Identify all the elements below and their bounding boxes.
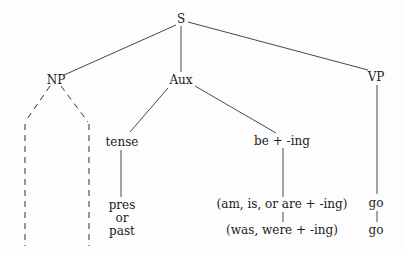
syntax-tree-diagram: S NP Aux VP tense be + -ing pres or past… — [0, 0, 405, 254]
dashed-edge-np-right — [61, 86, 88, 122]
node-go-present: go — [369, 197, 384, 209]
edge-aux-tense — [130, 88, 168, 132]
edge-aux-be-ing — [195, 86, 276, 133]
edge-s-vp — [188, 22, 368, 70]
node-np: NP — [47, 74, 66, 86]
dashed-edge-np-left — [25, 86, 50, 122]
tree-edges — [0, 0, 405, 254]
node-be-ing-past: (was, were + -ing) — [226, 224, 338, 236]
node-tense-values: pres or past — [109, 199, 136, 238]
node-vp: VP — [368, 71, 385, 83]
node-be-ing-present: (am, is, or are + -ing) — [217, 198, 348, 210]
node-tense: tense — [106, 136, 139, 148]
node-go-past: go — [369, 224, 384, 236]
tense-value-past: past — [109, 225, 136, 238]
node-aux: Aux — [169, 74, 192, 86]
node-s: S — [177, 13, 185, 25]
edge-s-np — [64, 25, 176, 75]
node-be-ing: be + -ing — [254, 135, 310, 147]
